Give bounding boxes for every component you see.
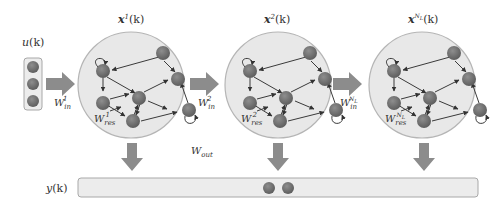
reservoir-2: x2(k) Wres2 xyxy=(225,13,343,138)
output-vector-bar xyxy=(78,178,478,197)
input-node xyxy=(27,95,39,107)
win-label-2: Win2 xyxy=(198,95,216,111)
reservoir-1: x1(k) Wres1 xyxy=(78,13,196,138)
reservoir-3: xNL(k) WresNL xyxy=(369,12,487,138)
output-arrows xyxy=(121,143,435,171)
output-label: y(k) xyxy=(45,182,67,195)
output-arrow-3 xyxy=(413,143,435,171)
win-label-1: Win1 xyxy=(54,95,72,111)
input-arrow-1 xyxy=(46,72,75,96)
input-arrow-3 xyxy=(333,72,362,96)
output-layer: y(k) xyxy=(45,178,478,197)
input-arrow-2 xyxy=(190,72,219,96)
state-label-1: x1(k) xyxy=(117,13,144,26)
input-label: u(k) xyxy=(22,36,44,49)
wout-label: Wout xyxy=(191,145,213,159)
output-arrow-2 xyxy=(267,143,289,171)
output-node xyxy=(282,182,294,194)
input-layer: u(k) xyxy=(22,36,44,110)
input-node xyxy=(27,78,39,90)
output-arrow-1 xyxy=(121,143,143,171)
state-label-2: x2(k) xyxy=(263,13,290,26)
deep-esn-diagram: u(k) Win1 Win2 WinNL x1(k) Wres1 x2(k) W… xyxy=(0,0,499,209)
state-label-3: xNL(k) xyxy=(407,12,438,26)
input-node xyxy=(27,61,39,73)
output-node xyxy=(263,182,275,194)
